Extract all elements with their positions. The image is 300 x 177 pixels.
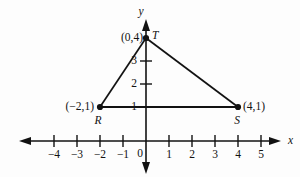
x-axis-right-arrowhead xyxy=(269,137,281,145)
y-axis-up-arrowhead xyxy=(142,19,150,31)
y-axis-down-arrowhead xyxy=(142,162,150,174)
point-t xyxy=(143,35,149,41)
x-axis xyxy=(19,135,281,147)
coordinate-plane-canvas xyxy=(0,0,300,177)
y-tick-label-1: 1 xyxy=(131,101,137,113)
y-tick-label-2: 2 xyxy=(131,78,137,90)
point-s-name-label: S xyxy=(234,115,240,127)
x-tick-label-1: 1 xyxy=(166,149,172,161)
x-tick-label-minus2: −2 xyxy=(94,149,106,161)
x-tick-label-minus1: −1 xyxy=(117,149,129,161)
y-axis-label: y xyxy=(138,6,143,18)
point-t-coordinate-label: (0,4) xyxy=(121,32,143,44)
x-tick-label-2: 2 xyxy=(189,149,195,161)
point-s xyxy=(235,104,241,110)
point-t-name-label: T xyxy=(152,30,158,42)
origin-label: 0 xyxy=(137,148,143,160)
point-r xyxy=(97,104,103,110)
x-tick-label-3: 3 xyxy=(212,149,218,161)
x-tick-label-minus4: −4 xyxy=(48,149,60,161)
x-tick-label-4: 4 xyxy=(235,149,241,161)
vertex-points xyxy=(97,35,241,110)
triangle-rst xyxy=(100,38,238,107)
x-axis-label: x xyxy=(288,135,293,147)
segment-tr xyxy=(100,38,146,107)
point-r-coordinate-label: (−2,1) xyxy=(65,101,94,113)
x-tick-label-5: 5 xyxy=(258,149,264,161)
point-r-name-label: R xyxy=(94,115,101,127)
x-tick-label-minus3: −3 xyxy=(71,149,83,161)
point-s-coordinate-label: (4,1) xyxy=(243,101,265,113)
coordinate-plane-figure: x y 0 −4 −3 −2 −1 1 2 3 4 5 1 2 3 (0,4) … xyxy=(0,0,300,177)
x-axis-left-arrowhead xyxy=(19,137,31,145)
y-tick-label-3: 3 xyxy=(131,55,137,67)
segment-ts xyxy=(146,38,238,107)
